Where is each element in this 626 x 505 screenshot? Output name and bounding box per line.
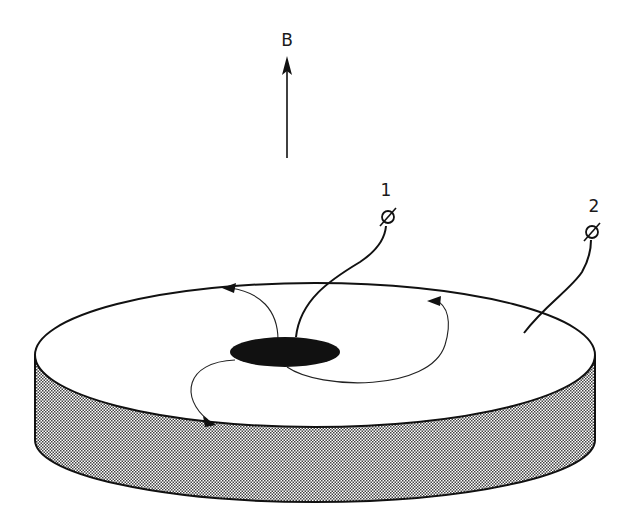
terminal-2-label: 2: [589, 196, 600, 216]
terminal-2: 2: [584, 196, 600, 241]
corbino-disk-diagram: B 1 2: [0, 0, 626, 505]
terminal-1-label: 1: [381, 180, 392, 200]
field-label: B: [281, 30, 293, 50]
center-electrode: [230, 337, 340, 367]
magnetic-field-arrow: B: [281, 30, 293, 158]
terminal-1: 1: [380, 180, 396, 226]
